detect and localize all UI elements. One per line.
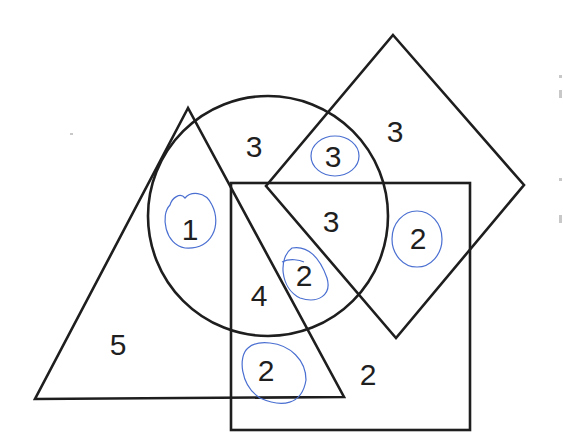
region-label-square-only: 2 bbox=[360, 358, 377, 391]
region-label-circle-only: 3 bbox=[246, 130, 263, 163]
scan-mark bbox=[559, 90, 562, 98]
scan-mark bbox=[559, 215, 562, 223]
region-label-square-diamond: 2 bbox=[410, 222, 427, 255]
region-label-diamond-only: 3 bbox=[387, 115, 404, 148]
venn-diagram: 5 1 3 3 3 3 2 4 2 2 2 bbox=[0, 0, 563, 447]
region-label-all-four: 2 bbox=[296, 259, 313, 292]
region-label-triangle-circle-square: 4 bbox=[251, 279, 268, 312]
region-label-triangle-circle: 1 bbox=[182, 213, 199, 246]
triangle-shape bbox=[35, 108, 344, 399]
scan-mark bbox=[559, 75, 562, 78]
diamond-shape bbox=[266, 35, 524, 338]
region-label-triangle-only: 5 bbox=[110, 328, 127, 361]
scan-mark bbox=[70, 133, 73, 135]
scan-mark bbox=[559, 178, 562, 181]
region-label-circle-diamond: 3 bbox=[325, 140, 342, 173]
region-label-circle-square-diamond: 3 bbox=[323, 205, 340, 238]
region-label-triangle-square: 2 bbox=[258, 354, 275, 387]
